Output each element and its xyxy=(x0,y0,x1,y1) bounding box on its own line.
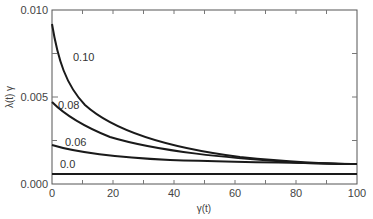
x-tick-label: 40 xyxy=(168,187,180,199)
curve-label: 0.10 xyxy=(73,51,94,63)
curve-label: 0.06 xyxy=(65,136,86,148)
x-tick-label: 100 xyxy=(348,187,366,199)
y-ticks xyxy=(52,54,357,141)
x-axis-label: γ(t) xyxy=(197,203,211,214)
x-ticks xyxy=(83,10,327,184)
x-tick-label: 60 xyxy=(229,187,241,199)
y-tick-label: 0.005 xyxy=(20,91,48,103)
y-tick-label: 0.010 xyxy=(20,4,48,16)
curve-0.10 xyxy=(52,24,357,164)
x-tick-label: 0 xyxy=(49,187,55,199)
curve-label: 0.0 xyxy=(60,158,75,170)
curve-label: 0.08 xyxy=(58,99,79,111)
curves xyxy=(52,24,357,174)
x-tick-label: 20 xyxy=(107,187,119,199)
x-tick-label: 80 xyxy=(290,187,302,199)
line-chart: 0.010 0.005 0.000 0 20 40 60 80 100 γ(t)… xyxy=(0,0,373,219)
y-axis-label: λ(t) γ xyxy=(4,86,15,108)
plot-frame xyxy=(52,10,357,184)
y-tick-label: 0.000 xyxy=(20,178,48,190)
